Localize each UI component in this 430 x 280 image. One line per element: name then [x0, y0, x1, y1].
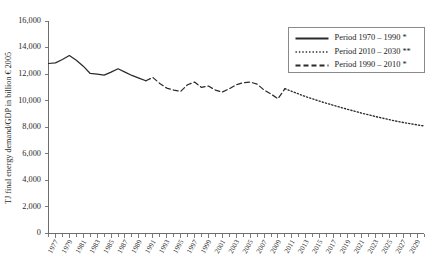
x-tick-label: 2019 — [338, 238, 352, 255]
x-tick-label: 2007 — [255, 238, 269, 255]
x-tick-label: 1999 — [199, 238, 213, 255]
y-tick-label: 0 — [37, 228, 41, 237]
chart-legend: Period 1970 – 1990 *Period 2010 – 2030 *… — [289, 28, 425, 73]
x-tick-label: 1993 — [158, 238, 172, 255]
y-tick-label: 12,000 — [18, 69, 41, 78]
x-tick-label: 2025 — [380, 238, 394, 255]
legend-item-label: Period 2010 – 2030 ** — [335, 47, 411, 56]
y-axis-title-label: TJ final energy demand/GDP in billion € … — [4, 52, 13, 204]
x-tick-label: 2023 — [366, 238, 380, 255]
x-tick-label: 2009 — [269, 238, 283, 255]
y-axis-title: TJ final energy demand/GDP in billion € … — [4, 52, 13, 204]
x-tick-label: 2029 — [408, 238, 422, 255]
x-tick-label: 1983 — [88, 238, 102, 255]
line-chart: TJ final energy demand/GDP in billion € … — [0, 0, 430, 280]
x-tick-label: 1985 — [102, 238, 116, 255]
x-tick-label: 2003 — [227, 238, 241, 255]
y-tick-label: 10,000 — [18, 96, 41, 105]
x-tick-label: 1977 — [46, 238, 60, 255]
chart-container: TJ final energy demand/GDP in billion € … — [0, 0, 430, 280]
x-tick-label: 2001 — [213, 238, 227, 255]
x-tick-label: 1987 — [116, 238, 130, 255]
y-tick-label: 2,000 — [22, 202, 41, 211]
x-tick-label: 2021 — [352, 238, 366, 255]
x-tick-label: 2011 — [283, 238, 297, 255]
x-tick-label: 1991 — [144, 238, 158, 255]
legend-item-label: Period 1990 – 2010 * — [335, 60, 407, 69]
y-tick-label: 6,000 — [22, 149, 41, 158]
x-axis-ticks: 1977197919811983198519871989199119931995… — [46, 234, 424, 255]
y-axis-ticks: 02,0004,0006,0008,00010,00012,00014,0001… — [18, 16, 48, 238]
x-tick-label: 2017 — [324, 238, 338, 255]
x-tick-label: 1989 — [130, 238, 144, 255]
y-tick-label: 4,000 — [22, 175, 41, 184]
x-tick-label: 2013 — [297, 238, 311, 255]
series-line — [285, 89, 424, 126]
y-tick-label: 14,000 — [18, 42, 41, 51]
x-tick-label: 1981 — [74, 238, 88, 255]
series-line — [49, 56, 146, 81]
x-tick-label: 1979 — [60, 238, 74, 255]
series-line — [146, 77, 285, 98]
y-tick-label: 8,000 — [22, 122, 41, 131]
x-tick-label: 2027 — [394, 238, 408, 255]
y-tick-label: 16,000 — [18, 16, 41, 25]
x-tick-label: 1997 — [185, 238, 199, 255]
legend-item-label: Period 1970 – 1990 * — [335, 33, 407, 42]
x-tick-label: 2015 — [311, 238, 325, 255]
x-tick-label: 1995 — [171, 238, 185, 255]
x-tick-label: 2005 — [241, 238, 255, 255]
